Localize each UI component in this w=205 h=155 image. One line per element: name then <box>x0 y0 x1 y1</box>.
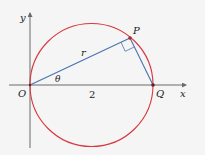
radius-label: r <box>81 47 87 58</box>
point-p-label: P <box>132 25 140 36</box>
polar-circle-diagram: y x O P Q r θ 2 <box>0 0 205 155</box>
length-label: 2 <box>89 89 95 100</box>
point-q-label: Q <box>156 88 164 99</box>
x-axis-label: x <box>180 88 186 99</box>
point-p <box>128 36 132 40</box>
point-q <box>151 83 155 87</box>
angle-label: θ <box>55 74 61 84</box>
point-o <box>29 84 31 86</box>
segment-pq <box>130 38 153 85</box>
y-axis-label: y <box>19 12 26 23</box>
origin-label: O <box>18 88 26 99</box>
